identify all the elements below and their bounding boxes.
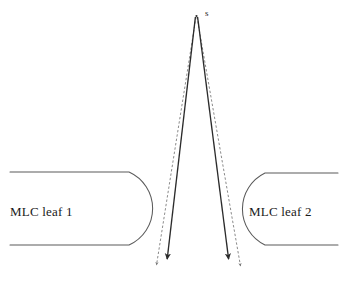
mlc-leaf-2-label: MLC leaf 2 xyxy=(249,204,312,220)
diagram-canvas xyxy=(0,0,339,289)
solid-ray-group xyxy=(167,17,228,259)
right-solid-ray xyxy=(198,17,229,259)
source-point xyxy=(195,15,197,17)
mlc-leaf-1-label: MLC leaf 1 xyxy=(10,204,73,220)
right-dashed-ray xyxy=(197,17,241,266)
left-solid-ray xyxy=(167,17,195,259)
source-label: s xyxy=(205,8,209,18)
left-dashed-ray xyxy=(157,17,197,265)
dashed-ray-group xyxy=(157,17,241,266)
mlc-beam-diagram: s MLC leaf 1 MLC leaf 2 xyxy=(0,0,339,289)
